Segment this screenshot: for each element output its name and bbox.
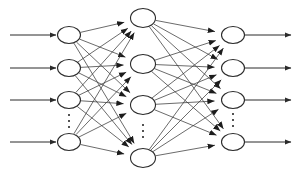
ellipsis-dot xyxy=(142,124,144,126)
edges-hidden-to-output xyxy=(149,20,223,155)
edge-i3-h4 xyxy=(77,106,129,146)
ellipsis-dot xyxy=(142,130,144,132)
edge-i3-h2 xyxy=(79,72,126,95)
neuron-i4 xyxy=(58,134,81,151)
ellipsis-input-layer xyxy=(68,114,70,128)
ellipsis-dot xyxy=(68,114,70,116)
edges-input-to-hidden xyxy=(74,22,134,154)
ellipsis-output-layer xyxy=(232,113,234,127)
neuron-o1 xyxy=(222,27,245,44)
ellipsis-dot xyxy=(142,136,144,138)
ellipsis-hidden-layer xyxy=(142,124,144,138)
neural-network-canvas xyxy=(0,0,298,175)
edge-h2-o2 xyxy=(156,65,215,68)
edge-i1-h1 xyxy=(80,22,124,32)
neuron-o3 xyxy=(222,92,245,109)
edge-h3-o2 xyxy=(154,75,216,101)
edge-i3-h3 xyxy=(81,101,124,104)
edge-h4-o4 xyxy=(156,145,215,156)
neuron-h3 xyxy=(131,96,156,115)
edge-h3-o4 xyxy=(154,110,216,136)
neuron-i1 xyxy=(58,27,81,44)
neuron-o4 xyxy=(222,134,245,151)
edge-h2-o1 xyxy=(155,41,216,61)
neuron-h4 xyxy=(131,149,156,168)
edge-h3-o3 xyxy=(156,101,215,104)
edge-i4-h3 xyxy=(79,113,126,137)
edge-h1-o3 xyxy=(151,26,220,89)
neuron-o2 xyxy=(222,60,245,77)
io-arrows xyxy=(10,35,291,142)
neuron-i3 xyxy=(58,92,81,109)
neuron-h2 xyxy=(131,55,156,74)
edge-h4-o1 xyxy=(149,48,223,149)
neuron-h1 xyxy=(131,9,156,28)
neural-network-diagram xyxy=(0,0,298,175)
edge-i1-h2 xyxy=(80,39,126,57)
neuron-i2 xyxy=(58,60,81,77)
ellipsis-dot xyxy=(68,120,70,122)
ellipsis-dot xyxy=(68,126,70,128)
ellipsis-dot xyxy=(232,119,234,121)
edge-i2-h3 xyxy=(79,73,126,97)
ellipsis-dot xyxy=(232,125,234,127)
edge-i4-h4 xyxy=(81,144,125,153)
ellipsis-dot xyxy=(232,113,234,115)
edge-i2-h1 xyxy=(78,28,128,62)
